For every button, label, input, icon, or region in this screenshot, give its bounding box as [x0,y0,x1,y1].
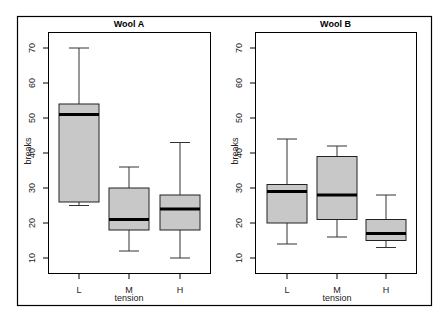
y-tick-label: 60 [27,78,37,88]
y-tick-label: 30 [27,183,37,193]
y-axis-label: breaks [230,137,240,165]
x-axis-label: tension [322,293,351,303]
y-tick-label: 10 [234,253,244,263]
panel-wool-a: Wool A10203040506070breaksLMHtension [23,19,210,303]
y-tick-label: 70 [234,43,244,53]
y-axis-label: breaks [23,137,33,165]
x-tick-label: H [177,285,184,295]
iqr-box [109,188,149,230]
iqr-box [160,195,200,230]
iqr-box [366,220,406,241]
x-axis-label: tension [114,293,143,303]
iqr-box [317,157,357,220]
y-tick-label: 60 [234,78,244,88]
x-tick-label: H [383,285,390,295]
y-tick-label: 70 [27,43,37,53]
y-tick-label: 10 [27,253,37,263]
y-tick-label: 20 [234,218,244,228]
y-tick-label: 30 [234,183,244,193]
iqr-box [59,104,99,202]
panel-title: Wool B [320,19,351,29]
panel-title: Wool A [114,19,145,29]
x-tick-label: L [284,285,289,295]
y-tick-label: 50 [27,113,37,123]
y-tick-label: 20 [27,218,37,228]
panel-wool-b: Wool B10203040506070breaksLMHtension [230,19,416,303]
x-tick-label: L [76,285,81,295]
y-tick-label: 50 [234,113,244,123]
boxplot-figure: Wool A10203040506070breaksLMHtensionWool… [0,0,447,321]
